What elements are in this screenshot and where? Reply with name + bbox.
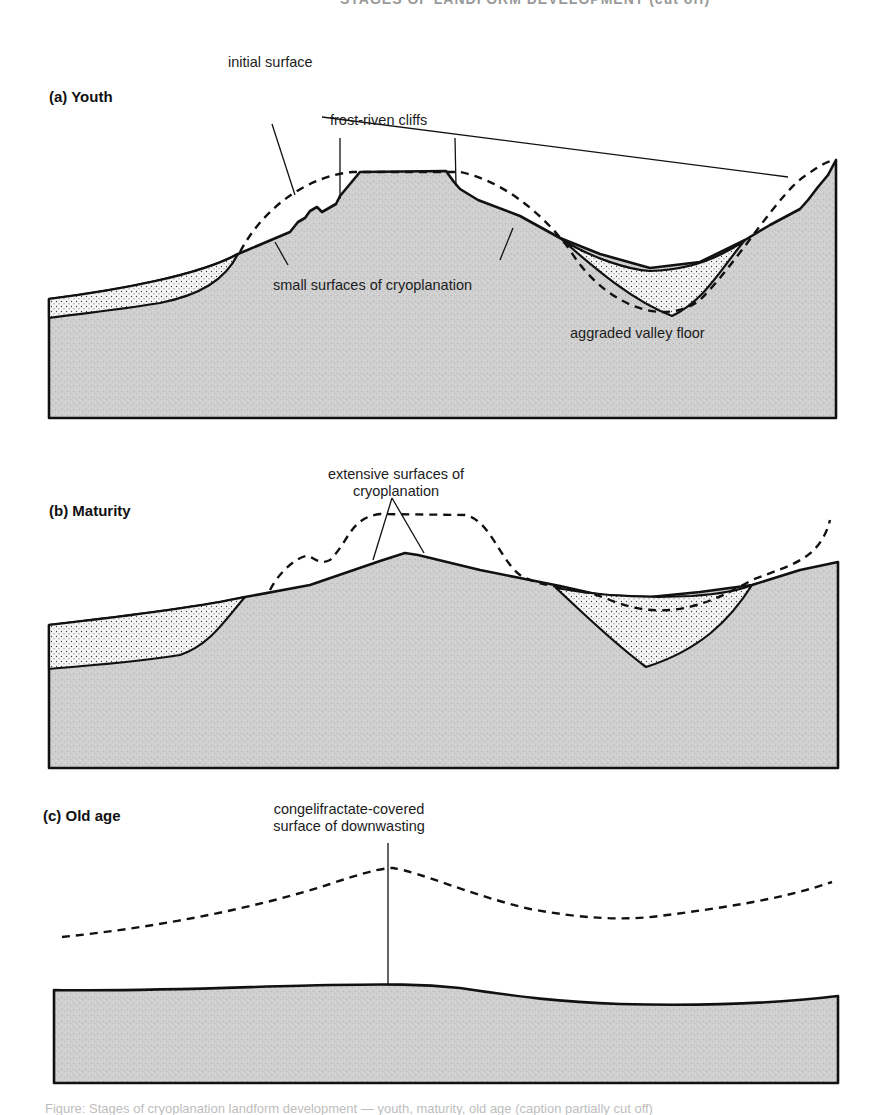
cryoplanation-stages-figure: STAGES OF LANDFORM DEVELOPMENT (cut off)… bbox=[0, 0, 883, 1115]
figure-caption-fragment: Figure: Stages of cryoplanation landform… bbox=[45, 1101, 653, 1115]
label-congelifractate-line1: congelifractate-covered bbox=[274, 801, 425, 817]
label-small-surfaces-cryoplanation: small surfaces of cryoplanation bbox=[273, 277, 472, 293]
panel-title-youth: (a) Youth bbox=[49, 88, 113, 105]
bedrock-profile bbox=[49, 553, 838, 768]
panel-youth: (a) Youth initial surface frost-riven cl… bbox=[49, 54, 836, 418]
label-frost-riven-cliffs: frost-riven cliffs bbox=[330, 112, 427, 128]
label-aggraded-valley-floor: aggraded valley floor bbox=[570, 325, 705, 341]
panel-old-age: (c) Old age congelifractate-covered surf… bbox=[43, 801, 838, 1083]
label-congelifractate-line2: surface of downwasting bbox=[273, 818, 425, 834]
initial-surface-dashed-line bbox=[62, 868, 832, 937]
label-extensive-surfaces-line2: cryoplanation bbox=[353, 483, 439, 499]
initial-surface-leader-left bbox=[272, 124, 295, 195]
panel-title-old-age: (c) Old age bbox=[43, 807, 121, 824]
frost-riven-cliffs-leader-right bbox=[455, 138, 456, 186]
label-extensive-surfaces-line1: extensive surfaces of bbox=[328, 466, 465, 482]
header-fragment: STAGES OF LANDFORM DEVELOPMENT (cut off) bbox=[340, 0, 710, 7]
panel-title-maturity: (b) Maturity bbox=[49, 502, 131, 519]
extensive-surfaces-leader-left bbox=[373, 498, 392, 560]
bedrock-profile bbox=[54, 984, 838, 1083]
panel-maturity: (b) Maturity extensive surfaces of cryop… bbox=[49, 466, 838, 768]
label-initial-surface: initial surface bbox=[228, 54, 313, 70]
extensive-surfaces-leader-right bbox=[392, 498, 424, 553]
